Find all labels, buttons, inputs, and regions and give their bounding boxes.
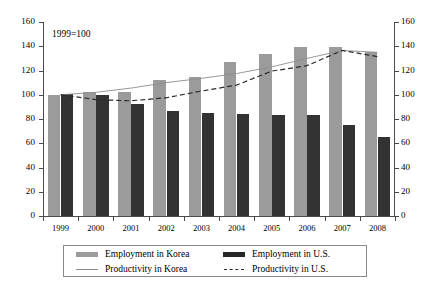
productivity-korea-line [61, 50, 378, 94]
x-tick [254, 217, 255, 221]
x-tick [289, 217, 290, 221]
y-tick-label-left: 20 [5, 187, 35, 196]
x-tick [325, 217, 326, 221]
bar-us-swatch-icon [223, 247, 245, 262]
bar-korea-swatch-icon [76, 247, 98, 262]
x-tick-label: 2005 [252, 223, 292, 233]
y-tick-label-right: 100 [401, 90, 430, 99]
x-tick-label: 2008 [357, 223, 397, 233]
legend-row-productivity: Productivity in Korea Productivity in U.… [64, 262, 366, 277]
x-tick-label: 2001 [111, 223, 151, 233]
y-tick-right [395, 95, 399, 96]
y-tick-label-left: 160 [5, 17, 35, 26]
x-tick [219, 217, 220, 221]
x-tick-label: 2000 [76, 223, 116, 233]
y-tick-label-left: 120 [5, 66, 35, 75]
y-tick-label-right: 60 [401, 138, 430, 147]
y-tick-label-right: 40 [401, 163, 430, 172]
y-tick-right [395, 22, 399, 23]
x-tick [113, 217, 114, 221]
y-tick-label-right: 20 [401, 187, 430, 196]
y-tick-label-right: 140 [401, 41, 430, 50]
x-tick-label: 2004 [217, 223, 257, 233]
y-tick-label-right: 120 [401, 66, 430, 75]
y-tick-label-left: 100 [5, 90, 35, 99]
legend-label-employment-us: Employment in U.S. [252, 249, 330, 260]
y-tick-label-right: 80 [401, 114, 430, 123]
legend-item-productivity-korea: Productivity in Korea [64, 262, 221, 277]
x-tick [360, 217, 361, 221]
x-tick-label: 2007 [322, 223, 362, 233]
line-series-group [43, 22, 395, 216]
x-tick [78, 217, 79, 221]
x-tick-label: 2003 [181, 223, 221, 233]
x-tick-label: 2006 [287, 223, 327, 233]
plot-area [43, 22, 395, 216]
y-tick-label-left: 80 [5, 114, 35, 123]
chart-legend: Employment in Korea Employment in U.S. P… [63, 245, 367, 277]
y-tick-label-left: 60 [5, 138, 35, 147]
line-korea-swatch-icon [76, 262, 98, 277]
legend-item-productivity-us: Productivity in U.S. [221, 262, 366, 277]
legend-label-employment-korea: Employment in Korea [105, 249, 189, 260]
y-tick-label-left: 0 [5, 211, 35, 220]
x-tick [395, 217, 396, 221]
x-tick-label: 1999 [41, 223, 81, 233]
y-tick-right [395, 168, 399, 169]
y-tick-right [395, 192, 399, 193]
y-tick-label-left: 40 [5, 163, 35, 172]
y-tick-label-right: 160 [401, 17, 430, 26]
chart-figure: 1999=100 020406080100120140160 020406080… [0, 0, 430, 285]
y-tick-right [395, 119, 399, 120]
y-tick-label-left: 140 [5, 41, 35, 50]
legend-label-productivity-us: Productivity in U.S. [252, 264, 328, 275]
x-tick [149, 217, 150, 221]
x-tick [43, 217, 44, 221]
y-tick-label-right: 0 [401, 211, 430, 220]
legend-item-employment-us: Employment in U.S. [221, 247, 366, 262]
y-tick-right [395, 46, 399, 47]
x-tick [184, 217, 185, 221]
legend-item-employment-korea: Employment in Korea [64, 247, 221, 262]
y-tick-right [395, 143, 399, 144]
line-us-swatch-icon [223, 262, 245, 277]
x-tick-label: 2002 [146, 223, 186, 233]
legend-row-employment: Employment in Korea Employment in U.S. [64, 247, 366, 262]
y-tick-right [395, 71, 399, 72]
legend-label-productivity-korea: Productivity in Korea [105, 264, 187, 275]
